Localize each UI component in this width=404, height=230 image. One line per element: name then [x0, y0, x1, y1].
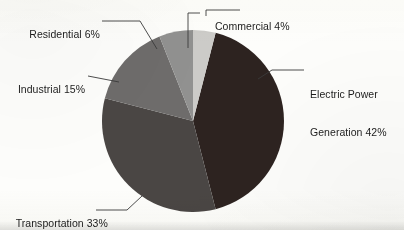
pie-label-electric-power-generation: Electric Power Generation 42%	[310, 63, 387, 163]
pie-label-industrial: Industrial 15%	[6, 70, 84, 108]
pie-label-electric-power-generation-line1: Electric Power	[310, 88, 387, 101]
pie-label-transportation: Transportation 33%	[4, 204, 92, 230]
pie-label-commercial-text: Commercial 4%	[215, 20, 290, 32]
pie-label-commercial: Commercial 4%	[203, 7, 290, 45]
leader-line-transportation	[96, 196, 142, 210]
pie-label-industrial-text: Industrial 15%	[18, 83, 85, 95]
pie-label-residential: Residential 6%	[16, 15, 100, 53]
pie-label-electric-power-generation-line2: Generation 42%	[310, 126, 387, 139]
pie-label-transportation-text: Transportation 33%	[16, 217, 108, 229]
pie-chart: Commercial 4% Electric Power Generation …	[0, 0, 404, 230]
pie-label-residential-text: Residential 6%	[29, 28, 100, 40]
